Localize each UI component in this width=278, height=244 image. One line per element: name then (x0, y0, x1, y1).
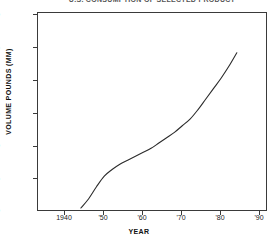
x-axis-title: YEAR (0, 228, 278, 235)
x-tick-label: '70 (161, 214, 201, 221)
x-tick-label: '80 (200, 214, 240, 221)
x-tick-label: '60 (122, 214, 162, 221)
x-tick-label: 1940 (44, 214, 84, 221)
x-tick-label: '50 (83, 214, 123, 221)
chart-title: U.S. CONSUMPTION OF SELECTED PRODUCT (37, 0, 267, 4)
line-chart: U.S. CONSUMPTION OF SELECTED PRODUCT 150… (0, 0, 278, 244)
x-tick-label: '90 (239, 214, 278, 221)
y-axis-title: VOLUME POUNDS (MM) (5, 32, 12, 152)
plot-area (37, 12, 267, 211)
series-line (38, 13, 268, 212)
